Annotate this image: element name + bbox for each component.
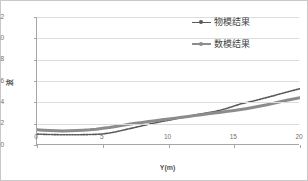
x-tick-mark — [37, 145, 38, 148]
gridline — [37, 124, 299, 125]
y-axis-title: 波 — [4, 79, 14, 86]
chart-figure: 024681012 05101520 Y(m) 波 物模结果 数模结果 — [0, 0, 308, 181]
legend-item[interactable]: 数模结果 — [192, 33, 266, 55]
y-tick-label: 4 — [0, 99, 4, 106]
legend-item-label: 数模结果 — [214, 40, 250, 49]
y-tick-mark — [34, 38, 37, 39]
legend: 物模结果 数模结果 — [192, 11, 266, 55]
legend-item[interactable]: 物模结果 — [192, 11, 266, 33]
gridline — [37, 60, 299, 61]
x-tick-mark — [234, 145, 235, 148]
legend-item-label: 物模结果 — [214, 18, 250, 27]
y-tick-mark — [34, 60, 37, 61]
y-tick-mark — [34, 81, 37, 82]
x-tick-label: 5 — [89, 134, 115, 141]
y-tick-label: 10 — [0, 35, 4, 42]
legend-marker-line-icon — [192, 40, 211, 48]
y-tick-mark — [34, 124, 37, 125]
y-tick-label: 8 — [0, 56, 4, 63]
y-tick-label: 2 — [0, 120, 4, 127]
y-tick-mark — [34, 102, 37, 103]
y-tick-label: 0 — [0, 142, 4, 149]
x-axis-title: Y(m) — [36, 164, 299, 171]
gridline — [37, 102, 299, 103]
legend-marker-line-icon — [192, 18, 211, 26]
y-tick-mark — [34, 17, 37, 18]
x-tick-label: 15 — [220, 134, 246, 141]
y-tick-label: 12 — [0, 14, 4, 21]
x-tick-mark — [169, 145, 170, 148]
x-tick-label: 10 — [155, 134, 181, 141]
gridline — [37, 81, 299, 82]
x-tick-label: 20 — [286, 134, 308, 141]
x-tick-label: 0 — [23, 134, 49, 141]
x-tick-mark — [300, 145, 301, 148]
x-tick-mark — [103, 145, 104, 148]
